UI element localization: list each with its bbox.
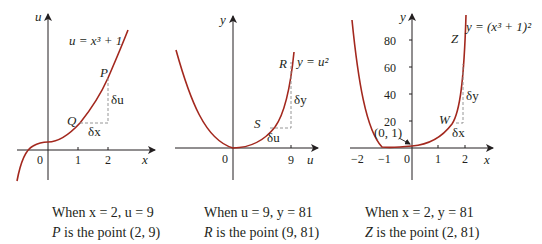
panel-1-delta-u: δu [111,92,124,107]
panel-3-delta-y: δy [466,88,479,103]
panel-1-tick-label-1: 1 [75,153,81,167]
panel-2-tick-label-9: 9 [288,153,294,167]
panel-3-caption-text: is the point (2, 81) [373,225,480,240]
panel-2-origin-label: 0 [222,152,228,166]
panel-1-origin-label: 0 [37,153,43,167]
panel-1-point-q: Q [67,113,77,128]
panel-2-x-label: u [307,152,314,167]
panel-1-caption-line2: P is the point (2, 9) [52,223,160,243]
panel-1-point-p: P [99,65,108,80]
panel-1-caption-text: is the point (2, 9) [61,225,161,240]
panel-3-y-label: y [398,9,406,24]
panel-3-graph: y x y = (x³ + 1)² 80 60 40 20 −2 −1 0 1 … [350,9,532,180]
panel-1-x-label: x [141,152,148,167]
panel-2-delta-u: δu [267,130,280,145]
panel-3-caption-line1: When x = 2, y = 81 [365,203,474,223]
panel-3-x-label: x [483,152,490,167]
panel-3-ytick-label-80: 80 [384,34,396,48]
panel-1-delta-lines [80,78,108,123]
panel-2-caption-line1: When u = 9, y = 81 [204,203,313,223]
panel-3-ytick-label-60: 60 [384,61,396,75]
panel-1-tick-label-2: 2 [105,153,111,167]
panel-3-equation: y = (x³ + 1)² [464,19,532,34]
panel-2-equation: y = u² [295,54,330,69]
panel-3-delta-x: δx [452,125,465,140]
panel-2-y-label: y [218,12,226,27]
panel-1-graph: u x u = x³ + 1 0 1 2 P Q δu δx [17,9,155,181]
panel-3-curve [352,15,466,147]
panel-3-xtick-label-neg2: −2 [351,152,364,166]
panel-3-xtick-label-neg1: −1 [378,152,391,166]
panel-1-y-label: u [35,9,42,24]
panel-2-delta-y: δy [294,92,307,107]
panel-1-caption-line1: When x = 2, u = 9 [52,203,154,223]
panel-1-delta-x: δx [88,124,101,139]
panel-3-annotation: (0, 1) [374,125,402,140]
panel-2-caption-point: R [204,225,213,240]
panel-1-caption-point: P [52,225,61,240]
panel-2-caption-text: is the point (9, 81) [213,225,320,240]
panel-1-equation: u = x³ + 1 [69,33,122,48]
panel-3-ytick-label-40: 40 [384,88,396,102]
panel-3-caption-point: Z [365,225,373,240]
panel-2-caption-line2: R is the point (9, 81) [204,223,319,243]
panel-3-point-z: Z [451,31,459,46]
panel-2-graph: y u y = u² 0 9 R S δy δu [175,12,330,180]
panel-2-point-r: R [278,56,287,71]
panel-3-point-w: W [439,112,451,127]
panel-3-xtick-label-2: 2 [462,152,468,166]
panel-2-point-s: S [254,116,261,131]
panel-3-caption-line2: Z is the point (2, 81) [365,223,479,243]
panel-3-origin-label: 0 [404,152,410,166]
panel-3-xtick-label-1: 1 [435,152,441,166]
